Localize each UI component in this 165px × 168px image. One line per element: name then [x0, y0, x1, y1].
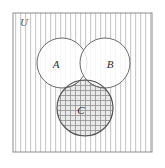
set-a-label: A — [52, 58, 60, 70]
venn-diagram-figure: U A B C — [0, 0, 165, 168]
venn-diagram-canvas: U A B C — [0, 0, 165, 168]
set-c-label: C — [77, 104, 85, 116]
set-b-label: B — [107, 58, 114, 70]
universe-label: U — [20, 16, 29, 28]
